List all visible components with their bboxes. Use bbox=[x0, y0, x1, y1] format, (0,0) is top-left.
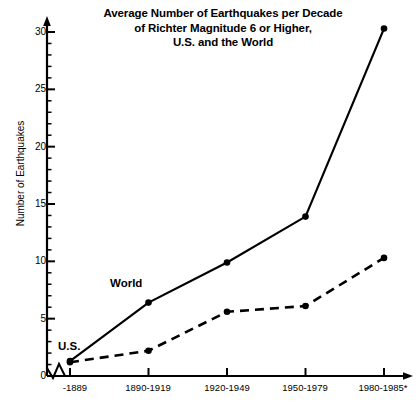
data-point-marker bbox=[302, 213, 309, 220]
plot-area bbox=[0, 0, 418, 404]
x-axis-arrow-icon bbox=[403, 372, 413, 380]
data-point-marker bbox=[145, 299, 152, 306]
earthquake-line-chart: Average Number of Earthquakes per Decade… bbox=[0, 0, 418, 404]
data-point-marker bbox=[381, 255, 388, 262]
y-axis-ticks bbox=[47, 32, 55, 376]
x-axis-ticks bbox=[70, 368, 384, 376]
data-point-marker bbox=[145, 347, 152, 354]
data-point-marker bbox=[224, 259, 231, 266]
data-point-marker bbox=[224, 308, 231, 315]
data-point-marker bbox=[302, 303, 309, 310]
series-u-s bbox=[67, 255, 388, 366]
axes bbox=[43, 16, 413, 380]
data-point-marker bbox=[381, 25, 388, 32]
series-layer bbox=[67, 25, 388, 365]
data-point-marker bbox=[67, 359, 74, 366]
y-axis-arrow-icon bbox=[43, 16, 51, 26]
